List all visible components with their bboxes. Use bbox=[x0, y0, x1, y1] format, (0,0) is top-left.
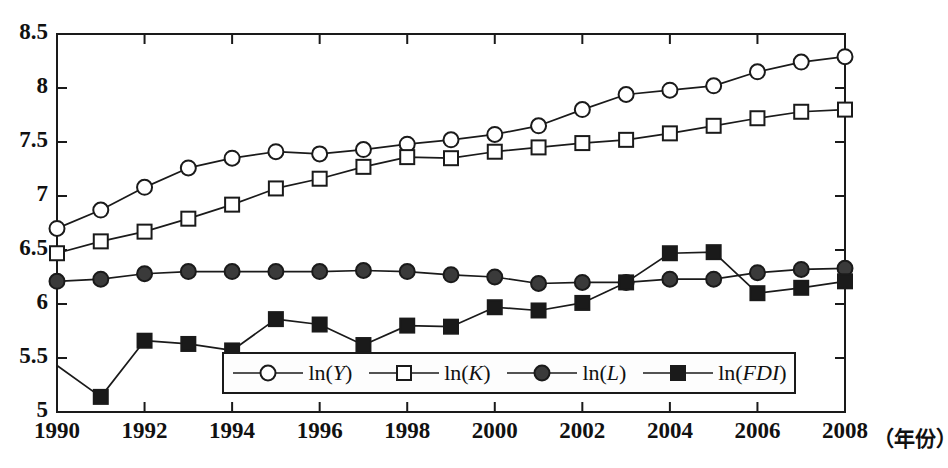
data-marker-filled-square bbox=[750, 286, 764, 300]
data-series-markers-1 bbox=[50, 49, 853, 236]
x-axis-tick-label: 2002 bbox=[547, 418, 617, 444]
data-marker-filled-square bbox=[707, 245, 721, 259]
x-axis-tick-label: 1998 bbox=[372, 418, 442, 444]
data-marker-filled-square bbox=[671, 366, 685, 380]
y-axis-tick-label: 5.5 bbox=[19, 343, 48, 369]
data-marker-open-circle bbox=[356, 142, 371, 157]
data-marker-filled-circle bbox=[794, 262, 809, 277]
x-axis-tick-label: 2004 bbox=[635, 418, 705, 444]
y-axis-tick-label: 8 bbox=[37, 73, 49, 99]
data-marker-filled-circle bbox=[356, 263, 371, 278]
series-line bbox=[57, 110, 845, 254]
data-marker-filled-circle bbox=[662, 272, 677, 287]
data-marker-filled-square bbox=[181, 337, 195, 351]
y-axis-tick-label: 8.5 bbox=[19, 19, 48, 45]
data-marker-open-circle bbox=[93, 203, 108, 218]
data-marker-open-square bbox=[444, 151, 458, 165]
x-axis-tick-label: 1994 bbox=[197, 418, 267, 444]
data-marker-open-circle bbox=[750, 64, 765, 79]
legend-marker-open-circle-icon bbox=[231, 362, 305, 384]
data-marker-filled-square bbox=[794, 281, 808, 295]
x-axis-tick-label: 1992 bbox=[110, 418, 180, 444]
data-marker-filled-circle bbox=[312, 264, 327, 279]
data-marker-open-circle bbox=[261, 366, 276, 381]
data-marker-open-circle bbox=[706, 78, 721, 93]
data-marker-filled-square bbox=[575, 296, 589, 310]
data-marker-open-square bbox=[269, 181, 283, 195]
legend-label: ln(K) bbox=[444, 360, 490, 386]
data-marker-filled-square bbox=[838, 274, 852, 288]
data-marker-open-circle bbox=[444, 132, 459, 147]
data-marker-open-square bbox=[313, 172, 327, 186]
legend-label: ln(FDI) bbox=[718, 360, 786, 386]
data-marker-open-circle bbox=[662, 83, 677, 98]
legend-entry: ln(Y) bbox=[231, 360, 352, 386]
data-marker-filled-circle bbox=[225, 264, 240, 279]
data-marker-open-square bbox=[94, 234, 108, 248]
legend-label: ln(L) bbox=[582, 360, 626, 386]
legend-marker-filled-circle-icon bbox=[505, 362, 579, 384]
legend-entry: ln(FDI) bbox=[641, 360, 786, 386]
legend-label: ln(Y) bbox=[308, 360, 352, 386]
data-marker-open-square bbox=[707, 119, 721, 133]
data-marker-filled-circle bbox=[50, 274, 65, 289]
data-marker-open-square bbox=[488, 145, 502, 159]
x-axis-tick-label: 2008 bbox=[810, 418, 880, 444]
data-marker-open-square bbox=[397, 366, 411, 380]
legend-entry: ln(L) bbox=[505, 360, 626, 386]
data-marker-open-circle bbox=[137, 180, 152, 195]
data-marker-open-circle bbox=[838, 49, 853, 64]
data-marker-filled-circle bbox=[750, 265, 765, 280]
data-marker-filled-square bbox=[400, 319, 414, 333]
data-marker-open-square bbox=[619, 133, 633, 147]
data-marker-filled-circle bbox=[93, 272, 108, 287]
data-marker-filled-circle bbox=[575, 275, 590, 290]
data-marker-filled-circle bbox=[487, 270, 502, 285]
data-marker-filled-circle bbox=[535, 366, 550, 381]
data-series-2 bbox=[57, 110, 845, 254]
data-marker-open-circle bbox=[575, 102, 590, 117]
y-axis-tick-label: 6 bbox=[37, 289, 49, 315]
data-marker-open-square bbox=[50, 246, 64, 260]
data-marker-open-circle bbox=[50, 221, 65, 236]
data-marker-open-circle bbox=[794, 55, 809, 70]
data-marker-open-square bbox=[225, 198, 239, 212]
data-marker-open-square bbox=[138, 225, 152, 239]
y-axis-tick-label: 6.5 bbox=[19, 235, 48, 261]
data-marker-open-circle bbox=[312, 146, 327, 161]
data-marker-filled-circle bbox=[444, 267, 459, 282]
x-axis-tick-label: 1996 bbox=[285, 418, 355, 444]
data-marker-filled-square bbox=[269, 312, 283, 326]
data-marker-open-circle bbox=[531, 118, 546, 133]
data-marker-open-square bbox=[400, 150, 414, 164]
data-marker-open-circle bbox=[619, 87, 634, 102]
data-marker-filled-circle bbox=[268, 264, 283, 279]
data-marker-filled-square bbox=[663, 246, 677, 260]
data-marker-open-square bbox=[532, 140, 546, 154]
data-marker-open-circle bbox=[181, 160, 196, 175]
data-marker-open-circle bbox=[225, 151, 240, 166]
data-marker-filled-square bbox=[444, 320, 458, 334]
data-marker-open-square bbox=[575, 136, 589, 150]
data-marker-open-square bbox=[838, 103, 852, 117]
data-marker-filled-square bbox=[619, 275, 633, 289]
data-marker-open-square bbox=[663, 126, 677, 140]
data-marker-filled-square bbox=[488, 300, 502, 314]
data-marker-filled-square bbox=[94, 390, 108, 404]
data-marker-open-square bbox=[794, 105, 808, 119]
data-marker-open-square bbox=[750, 111, 764, 125]
y-axis-tick-label: 7.5 bbox=[19, 127, 48, 153]
data-marker-open-square bbox=[181, 212, 195, 226]
data-marker-filled-circle bbox=[181, 264, 196, 279]
data-marker-filled-circle bbox=[706, 272, 721, 287]
data-marker-filled-square bbox=[313, 318, 327, 332]
data-marker-open-square bbox=[356, 160, 370, 174]
x-axis-tick-label: 1990 bbox=[22, 418, 92, 444]
data-marker-filled-square bbox=[356, 338, 370, 352]
data-marker-open-circle bbox=[487, 127, 502, 142]
legend-entry: ln(K) bbox=[367, 360, 490, 386]
data-marker-filled-circle bbox=[400, 264, 415, 279]
chart-legend: ln(Y)ln(K)ln(L)ln(FDI) bbox=[222, 352, 796, 394]
